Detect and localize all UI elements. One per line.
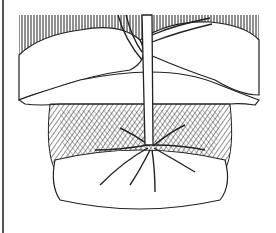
tree-planting-illustration	[0, 0, 276, 233]
hole-floor	[53, 150, 227, 209]
illustration-canvas	[0, 0, 276, 233]
